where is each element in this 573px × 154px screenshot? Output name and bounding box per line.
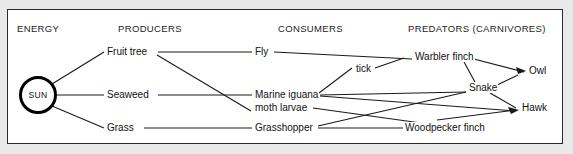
edge-warbler-finch-snake [463, 60, 476, 84]
food-web-diagram: ENERGY PRODUCERS CONSUMERS PREDATORS (CA… [0, 0, 573, 154]
edge-warbler-finch-owl [466, 57, 524, 72]
edge-marine-iguana-snake [320, 92, 466, 95]
node-snake: Snake [468, 82, 498, 93]
node-marine-iguana: Marine iguana [254, 89, 319, 100]
edge-tick-warbler-finch [375, 58, 404, 68]
node-warbler-finch: Warbler finch [414, 51, 475, 62]
column-header-predators: PREDATORS (CARNIVORES) [408, 23, 546, 34]
column-header-consumers: CONSUMERS [278, 23, 343, 34]
node-grasshopper: Grasshopper [254, 122, 314, 133]
node-owl: Owl [528, 65, 547, 76]
arrowhead-owl-a [516, 67, 526, 74]
edge-fruit-tree-moth-larvae [157, 55, 251, 111]
edge-marine-iguana-tick [319, 68, 352, 93]
edge-sun-grass [52, 106, 104, 128]
column-header-energy: ENERGY [17, 23, 59, 34]
edge-woodpecker-finch-hawk [437, 110, 516, 120]
node-fly: Fly [254, 46, 269, 57]
node-grass: Grass [106, 122, 135, 133]
edge-fly-warbler-finch [274, 52, 412, 59]
edge-snake-owl [495, 75, 518, 86]
arrowhead-hawk-a [508, 107, 519, 114]
node-moth-larvae: moth larvae [254, 102, 308, 113]
edge-sun-fruit-tree [52, 52, 104, 84]
node-sun: SUN [19, 76, 57, 114]
node-sun-label: SUN [29, 90, 48, 100]
node-seaweed: Seaweed [106, 89, 150, 100]
node-tick: tick [355, 63, 372, 74]
edge-snake-hawk [490, 93, 516, 108]
node-woodpecker-finch: Woodpecker finch [404, 122, 486, 133]
column-header-producers: PRODUCERS [118, 23, 182, 34]
node-hawk: Hawk [521, 102, 548, 113]
node-fruit-tree: Fruit tree [106, 46, 148, 57]
